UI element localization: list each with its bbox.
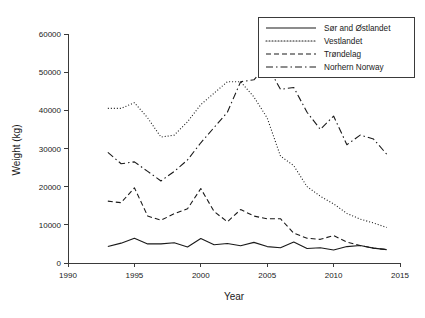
legend-label-1: Vestlandet: [324, 37, 363, 46]
y-tick-label: 50000: [39, 68, 62, 77]
series-line-0: [108, 238, 387, 250]
x-tick-label: 2010: [325, 271, 343, 280]
y-tick-label: 60000: [39, 30, 62, 39]
series-line-1: [108, 82, 387, 228]
y-tick-label: 40000: [39, 106, 62, 115]
chart-container: 0100002000030000400005000060000 19901995…: [0, 0, 425, 318]
y-tick-label: 30000: [39, 145, 62, 154]
x-tick-label: 1995: [126, 271, 144, 280]
x-axis: 199019952000200520102015: [59, 263, 409, 280]
y-axis: 0100002000030000400005000060000: [39, 30, 68, 268]
x-tick-label: 2000: [192, 271, 210, 280]
series-line-3: [108, 65, 387, 181]
legend-label-2: Trøndelag: [324, 50, 361, 59]
y-tick-label: 0: [57, 259, 62, 268]
line-chart: 0100002000030000400005000060000 19901995…: [0, 0, 425, 318]
x-tick-label: 2005: [258, 271, 276, 280]
chart-legend: Sør and ØstlandetVestlandetTrøndelagNorh…: [258, 17, 414, 77]
series-line-2: [108, 188, 387, 250]
y-tick-label: 10000: [39, 221, 62, 230]
y-tick-label: 20000: [39, 183, 62, 192]
data-series-group: [108, 65, 387, 250]
x-tick-label: 1990: [59, 271, 77, 280]
x-axis-title: Year: [224, 291, 245, 302]
y-axis-title: Weight (kg): [11, 125, 22, 176]
legend-label-0: Sør and Østlandet: [324, 24, 391, 33]
x-tick-label: 2015: [391, 271, 409, 280]
legend-label-3: Norhern Norway: [324, 63, 385, 72]
